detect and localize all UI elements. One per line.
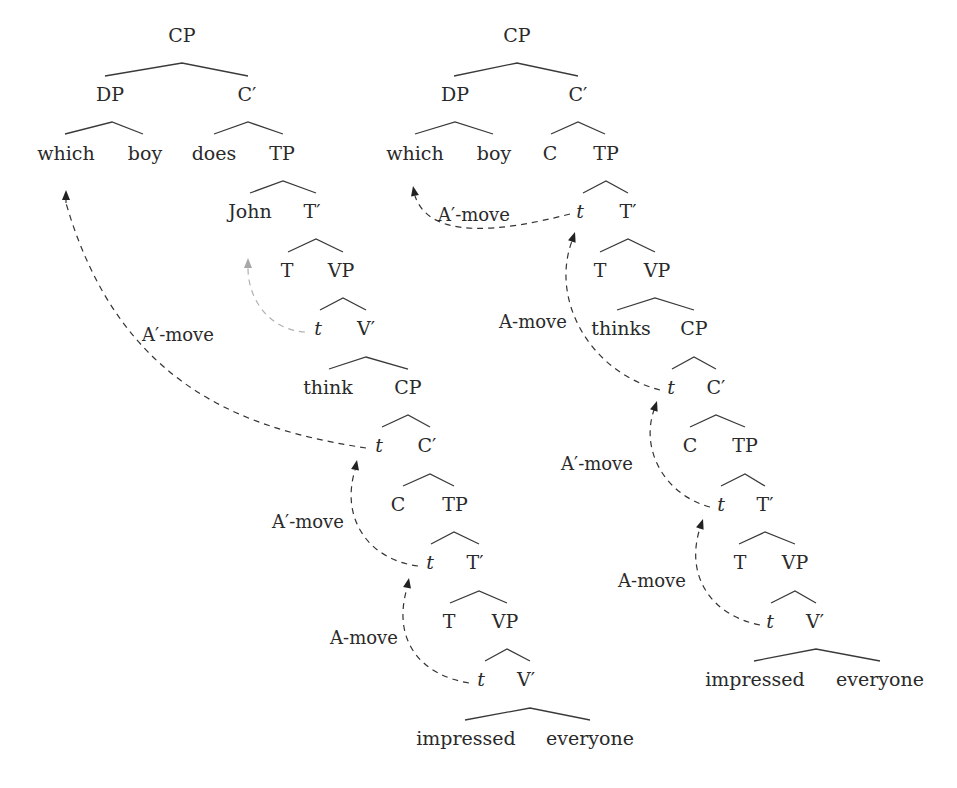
tree-branch xyxy=(600,239,655,252)
tree-node: VP xyxy=(491,610,519,632)
tree-branch xyxy=(771,591,816,603)
tree-node: DP xyxy=(96,83,124,105)
tree-node: boy xyxy=(128,142,163,164)
tree-branch xyxy=(250,181,316,193)
tree-node: TP xyxy=(269,142,295,164)
tree-node: T xyxy=(443,610,456,632)
tree-node: T′ xyxy=(304,200,321,222)
movement-path xyxy=(650,410,710,507)
tree-node: TP xyxy=(732,434,758,456)
tree-node: T xyxy=(281,259,294,281)
tree-branch xyxy=(105,63,248,76)
tree-branch xyxy=(450,591,507,603)
movement-label: A-move xyxy=(329,627,398,648)
tree-node: C xyxy=(391,493,406,515)
tree-node: C xyxy=(683,434,698,456)
movement-path xyxy=(403,588,469,683)
movement-label: A′-move xyxy=(560,453,633,474)
tree-node: TP xyxy=(593,142,619,164)
tree-node: John xyxy=(226,200,272,222)
tree-node: everyone xyxy=(836,668,924,690)
tree-branch xyxy=(739,532,795,544)
tree-node: which xyxy=(37,142,94,164)
movement-label: A-move xyxy=(498,311,567,332)
tree-branch xyxy=(415,122,493,134)
trace-node: t xyxy=(766,610,774,632)
tree-node: thinks xyxy=(591,317,650,339)
arrowhead-icon xyxy=(351,460,359,471)
trace-node: t xyxy=(667,376,675,398)
tree-node: VP xyxy=(327,259,355,281)
tree-node: V′ xyxy=(516,668,535,690)
tree-branch xyxy=(288,239,343,252)
tree-node: T′ xyxy=(620,200,637,222)
arrowhead-icon xyxy=(62,190,70,200)
tree-node: VP xyxy=(643,259,671,281)
arrowhead-icon xyxy=(411,186,419,197)
movement-path xyxy=(696,528,760,625)
tree-node: VP xyxy=(781,551,809,573)
tree-node: everyone xyxy=(546,727,634,749)
tree-node: V′ xyxy=(356,317,375,339)
tree-node: C′ xyxy=(418,434,437,456)
tree-branch xyxy=(320,298,366,310)
tree-branch xyxy=(672,357,716,369)
tree-node: C′ xyxy=(569,83,588,105)
arrowhead-icon xyxy=(568,232,576,243)
tree-node: impressed xyxy=(416,727,516,749)
movement-path xyxy=(248,268,305,332)
tree-branch xyxy=(403,474,454,486)
arrowhead-icon xyxy=(650,401,658,412)
trace-node: t xyxy=(375,434,383,456)
tree-node: boy xyxy=(477,142,512,164)
tree-node: CP xyxy=(680,317,708,339)
tree-node: TP xyxy=(442,493,468,515)
movement-label: A′-move xyxy=(141,324,214,345)
tree-branch xyxy=(65,122,143,134)
tree-node: CP xyxy=(503,24,531,46)
tree-node: T xyxy=(734,551,747,573)
tree-node: C′ xyxy=(238,83,257,105)
syntax-tree-diagram: CPDPC′whichboydoesTPJohnT′TVPtV′thinkCPt… xyxy=(0,0,957,788)
trace-node: t xyxy=(314,317,322,339)
tree-node: impressed xyxy=(705,668,805,690)
tree-branch xyxy=(617,298,694,310)
tree-branch xyxy=(551,122,605,134)
movement-label: A-move xyxy=(617,570,686,591)
movement-label: A′-move xyxy=(437,204,510,225)
tree-node: C′ xyxy=(707,376,726,398)
tree-node: which xyxy=(386,142,443,164)
tree-node: T xyxy=(594,259,607,281)
trace-node: t xyxy=(477,668,485,690)
tree-branch xyxy=(721,474,765,486)
tree-nodes: CPDPC′whichboydoesTPJohnT′TVPtV′thinkCPt… xyxy=(37,24,924,749)
arrowhead-icon xyxy=(696,519,704,530)
tree-node: does xyxy=(192,142,237,164)
tree-node: C xyxy=(543,142,558,164)
tree-branch xyxy=(431,532,479,544)
tree-node: T′ xyxy=(757,493,774,515)
tree-node: DP xyxy=(441,83,469,105)
trace-node: t xyxy=(426,551,434,573)
trace-node: t xyxy=(717,493,725,515)
tree-node: CP xyxy=(168,24,196,46)
movement-label: A′-move xyxy=(271,511,344,532)
arrowhead-icon xyxy=(244,258,252,268)
tree-branch xyxy=(454,63,578,76)
tree-branch xyxy=(382,415,430,427)
tree-node: T′ xyxy=(467,551,484,573)
tree-branch xyxy=(690,415,745,427)
tree-branch xyxy=(485,649,530,661)
tree-branch xyxy=(754,649,880,661)
arrowhead-icon xyxy=(403,578,411,589)
tree-branch xyxy=(465,708,590,720)
trace-node: t xyxy=(576,200,584,222)
tree-branch xyxy=(329,357,408,369)
tree-branch xyxy=(583,181,628,193)
tree-branch xyxy=(214,122,283,134)
tree-node: CP xyxy=(394,376,422,398)
tree-node: think xyxy=(303,376,353,398)
tree-node: V′ xyxy=(805,610,824,632)
tree-branches xyxy=(65,63,880,720)
